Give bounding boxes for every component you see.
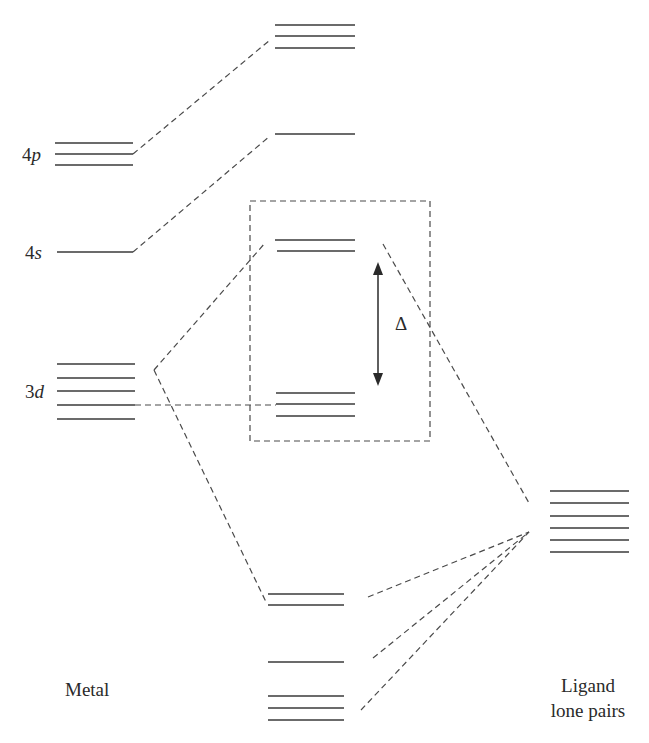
correlation-lines <box>133 40 529 710</box>
mo-t2g-nonbonding-levels <box>276 393 355 416</box>
ligand-lone-pair-levels <box>550 491 629 552</box>
mo-diagram: 4p 4s 3d <box>0 0 649 743</box>
label-4s: 4s <box>25 242 42 263</box>
label-4p: 4p <box>22 144 41 165</box>
mo-t1u-bonding-levels <box>268 696 344 720</box>
ligand-label-line1: Ligand <box>561 675 615 696</box>
metal-label: Metal <box>65 679 109 700</box>
metal-4p-levels <box>55 143 133 165</box>
mo-eg-antibonding-levels <box>275 240 355 251</box>
mo-t1u-antibonding-levels <box>275 25 355 48</box>
mo-eg-bonding-levels <box>268 594 344 605</box>
delta-arrow <box>373 262 383 386</box>
delta-label: Δ <box>395 313 407 334</box>
ligand-label-line2: lone pairs <box>551 700 625 721</box>
label-3d: 3d <box>25 381 45 402</box>
metal-3d-levels <box>57 364 135 419</box>
